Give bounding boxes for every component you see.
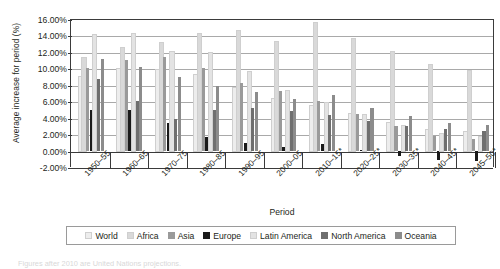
legend-item-africa[interactable]: Africa xyxy=(127,231,159,241)
legend-swatch xyxy=(127,232,134,239)
y-tick-mark xyxy=(68,119,72,120)
legend-label: World xyxy=(95,231,117,241)
y-axis-title: Average increase for period (%) xyxy=(11,3,21,163)
bar-world xyxy=(310,106,313,150)
y-tick-label: 14.00% xyxy=(38,31,67,41)
bar-latin-america xyxy=(286,91,289,150)
legend-item-oceania[interactable]: Oceania xyxy=(395,231,437,241)
bar-north-america xyxy=(97,79,100,151)
chart-figure: Average increase for period (%) 16.00%14… xyxy=(0,0,500,269)
bar-africa xyxy=(391,52,394,151)
chart-footnote: Figures after 2010 are United Nations pr… xyxy=(18,259,181,269)
bar-africa xyxy=(82,58,85,151)
legend-swatch xyxy=(85,232,92,239)
bar-africa xyxy=(352,39,355,151)
bar-north-america xyxy=(251,108,254,151)
y-tick-mark xyxy=(68,20,72,21)
bar-world xyxy=(233,88,236,150)
legend-swatch xyxy=(250,232,257,239)
legend-item-north-america[interactable]: North America xyxy=(321,231,385,241)
legend-item-world[interactable]: World xyxy=(85,231,117,241)
bar-africa xyxy=(237,31,240,150)
bar-north-america xyxy=(482,131,485,151)
y-tick-label: 10.00% xyxy=(38,64,67,74)
bar-africa xyxy=(468,71,471,151)
bar-group xyxy=(464,20,489,167)
bar-oceania xyxy=(332,95,335,151)
y-tick-mark xyxy=(68,102,72,103)
y-tick-mark xyxy=(68,69,72,70)
bar-latin-america xyxy=(402,126,405,151)
bar-group xyxy=(426,20,451,167)
chart-legend: WorldAfricaAsiaEuropeLatin AmericaNorth … xyxy=(66,226,456,245)
bar-world xyxy=(156,70,159,151)
bar-asia xyxy=(279,91,282,150)
legend-swatch xyxy=(321,232,328,239)
y-tick-mark xyxy=(68,36,72,37)
bar-europe xyxy=(244,143,247,150)
x-axis-title: Period xyxy=(70,207,494,217)
y-tick-label: -2.00% xyxy=(40,163,67,173)
legend-label: Asia xyxy=(178,231,195,241)
bar-asia xyxy=(202,68,205,150)
bar-oceania xyxy=(293,99,296,151)
bar-latin-america xyxy=(209,53,212,151)
bar-africa xyxy=(121,48,124,151)
bar-group xyxy=(79,20,104,167)
bar-europe xyxy=(360,150,363,151)
bar-africa xyxy=(160,43,163,151)
legend-label: Oceania xyxy=(405,231,437,241)
bar-asia xyxy=(317,101,320,150)
bar-group xyxy=(156,20,181,167)
bar-group xyxy=(272,20,297,167)
bar-world xyxy=(464,132,467,150)
y-tick-label: 16.00% xyxy=(38,15,67,25)
y-tick-label: 0.00% xyxy=(43,147,67,157)
bar-oceania xyxy=(370,108,373,151)
y-tick-label: 12.00% xyxy=(38,48,67,58)
bar-oceania xyxy=(486,125,489,150)
bar-group xyxy=(233,20,258,167)
bar-oceania xyxy=(101,59,104,150)
bar-world xyxy=(194,75,197,151)
bar-group xyxy=(349,20,374,167)
legend-label: North America xyxy=(331,231,385,241)
legend-item-asia[interactable]: Asia xyxy=(168,231,195,241)
bar-oceania xyxy=(255,92,258,150)
bar-oceania xyxy=(409,116,412,151)
legend-item-europe[interactable]: Europe xyxy=(203,231,241,241)
bar-group xyxy=(117,20,142,167)
bar-oceania xyxy=(448,123,451,151)
legend-swatch xyxy=(168,232,175,239)
bar-world xyxy=(272,99,275,151)
bar-latin-america xyxy=(93,35,96,151)
bar-group xyxy=(194,20,219,167)
bar-europe xyxy=(167,123,170,150)
bar-north-america xyxy=(405,126,408,151)
legend-item-latin-america[interactable]: Latin America xyxy=(250,231,312,241)
bar-north-america xyxy=(367,121,370,151)
legend-label: Africa xyxy=(137,231,159,241)
bar-group xyxy=(387,20,412,167)
bar-world xyxy=(349,114,352,150)
bar-latin-america xyxy=(363,115,366,150)
bar-world xyxy=(79,77,82,151)
bar-asia xyxy=(472,139,475,151)
bar-north-america xyxy=(328,115,331,150)
legend-label: Europe xyxy=(213,231,241,241)
bar-latin-america xyxy=(170,52,173,151)
y-tick-mark xyxy=(68,135,72,136)
bar-asia xyxy=(86,68,89,151)
plot-area: 16.00%14.00%12.00%10.00%8.00%6.00%4.00%2… xyxy=(70,19,494,167)
bar-latin-america xyxy=(132,34,135,151)
bar-world xyxy=(387,123,390,151)
bar-oceania xyxy=(178,77,181,151)
y-tick-label: 2.00% xyxy=(43,130,67,140)
bar-asia xyxy=(240,83,243,150)
bar-africa xyxy=(314,23,317,150)
legend-label: Latin America xyxy=(260,231,312,241)
bar-asia xyxy=(394,126,397,151)
y-tick-label: 4.00% xyxy=(43,114,67,124)
bar-africa xyxy=(198,34,201,151)
bar-north-america xyxy=(290,111,293,150)
